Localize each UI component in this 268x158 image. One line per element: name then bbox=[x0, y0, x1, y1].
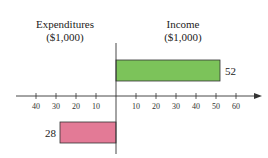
income-bar bbox=[116, 60, 220, 81]
tick-label: 10 bbox=[132, 102, 140, 111]
tick-label: 30 bbox=[52, 102, 60, 111]
tick-label: 60 bbox=[232, 102, 240, 111]
expenditure-bar bbox=[60, 122, 116, 143]
tick-label: 10 bbox=[92, 102, 100, 111]
expenditure-value-label: 28 bbox=[45, 127, 57, 139]
tick-label: 20 bbox=[72, 102, 80, 111]
bar-chart: 40 30 20 10 10 20 30 40 50 60 52 28 bbox=[0, 0, 268, 158]
tick-label: 40 bbox=[32, 102, 40, 111]
tick-label: 50 bbox=[212, 102, 220, 111]
axis-arrow-icon bbox=[254, 93, 262, 99]
tick-label: 30 bbox=[172, 102, 180, 111]
income-value-label: 52 bbox=[225, 65, 236, 77]
tick-label: 40 bbox=[192, 102, 200, 111]
tick-label: 20 bbox=[152, 102, 160, 111]
